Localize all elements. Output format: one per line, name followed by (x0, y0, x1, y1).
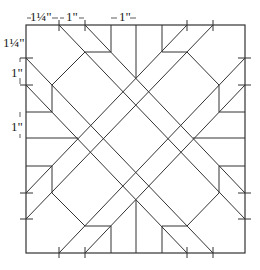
dimension-label-top-3: 1" (119, 9, 131, 24)
seam-lines (26, 25, 245, 253)
diag-down-4 (26, 85, 187, 253)
dimension-labels: 1¼"1"1"1¼"1"1" (3, 9, 131, 134)
diag-down-3 (26, 58, 213, 253)
diag-up-2 (26, 25, 187, 193)
oct-br-a (187, 193, 219, 226)
dimension-label-top-1: 1¼" (30, 9, 52, 24)
diag-down-2 (85, 25, 245, 193)
oct-tl-a (52, 52, 85, 85)
dimension-label-left-2: 1" (11, 65, 23, 80)
quilt-block-diagram: 1¼"1"1"1¼"1"1" (0, 0, 260, 270)
oct-tr-a (187, 52, 219, 85)
oct-bl-a (52, 193, 85, 226)
dimension-label-left-1: 1¼" (3, 35, 25, 50)
dimension-label-left-3: 1" (11, 119, 23, 134)
dimension-label-top-2: 1" (66, 9, 78, 24)
diag-up-4 (85, 85, 245, 253)
dimension-arrows (20, 18, 136, 138)
